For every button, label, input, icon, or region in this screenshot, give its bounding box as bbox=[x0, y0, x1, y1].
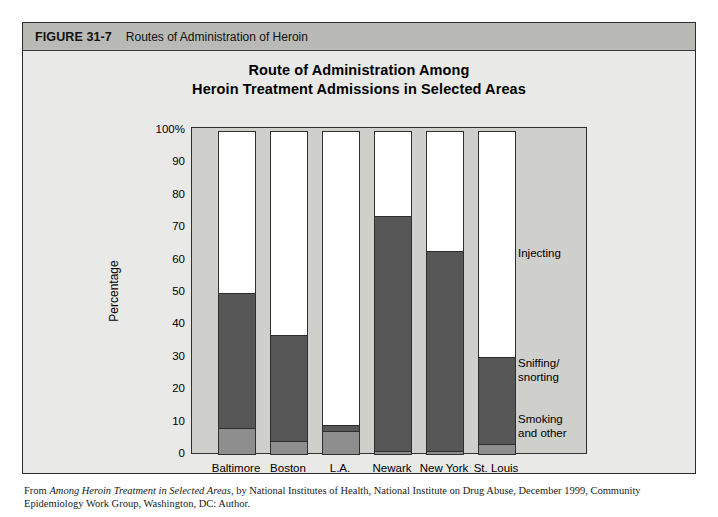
figure-page: FIGURE 31-7 Routes of Administration of … bbox=[0, 0, 718, 517]
y-tick-0: 0 bbox=[179, 447, 185, 459]
figure-header: FIGURE 31-7 Routes of Administration of … bbox=[23, 23, 695, 51]
bar-st-louis[interactable] bbox=[478, 131, 516, 455]
chart-title-line-2: Heroin Treatment Admissions in Selected … bbox=[23, 80, 695, 99]
bar-boston[interactable] bbox=[270, 131, 308, 455]
bar-l-a[interactable] bbox=[322, 131, 360, 455]
bar-newark[interactable] bbox=[374, 131, 412, 455]
x-label-boston: Boston bbox=[270, 462, 306, 474]
bar-baltimore[interactable] bbox=[218, 131, 256, 455]
bar-segment-sniff bbox=[479, 357, 515, 444]
y-tick-60: 60 bbox=[172, 253, 185, 265]
y-axis: 0102030405060708090100% bbox=[129, 127, 185, 454]
figure-frame: FIGURE 31-7 Routes of Administration of … bbox=[22, 22, 696, 474]
y-tick-40: 40 bbox=[172, 317, 185, 329]
y-tick-80: 80 bbox=[172, 188, 185, 200]
bar-segment-sniff bbox=[375, 216, 411, 451]
source-prefix: From bbox=[24, 485, 49, 496]
bar-segment-inject bbox=[271, 132, 307, 335]
bar-segment-smoke bbox=[479, 444, 515, 454]
bar-segment-sniff bbox=[271, 335, 307, 441]
bar-segment-inject bbox=[479, 132, 515, 357]
plot-area: InjectingSniffing/ snortingSmoking and o… bbox=[191, 127, 587, 454]
bar-segment-smoke bbox=[323, 431, 359, 454]
x-label-baltimore: Baltimore bbox=[212, 462, 261, 474]
y-tick-10: 10 bbox=[172, 415, 185, 427]
bar-segment-inject bbox=[219, 132, 255, 293]
y-axis-title: Percentage bbox=[107, 260, 121, 321]
bar-new-york[interactable] bbox=[426, 131, 464, 455]
y-tick-100: 100% bbox=[156, 123, 185, 135]
bar-segment-inject bbox=[323, 132, 359, 425]
bar-segment-smoke bbox=[219, 428, 255, 454]
y-tick-50: 50 bbox=[172, 285, 185, 297]
x-label-new-york: New York bbox=[420, 462, 469, 474]
y-tick-20: 20 bbox=[172, 382, 185, 394]
x-axis-labels: BaltimoreBostonL.A.NewarkNew YorkSt. Lou… bbox=[191, 458, 587, 478]
y-tick-30: 30 bbox=[172, 350, 185, 362]
bar-segment-sniff bbox=[427, 251, 463, 451]
bar-segment-inject bbox=[427, 132, 463, 251]
bar-segment-inject bbox=[375, 132, 411, 216]
bar-segment-smoke bbox=[375, 451, 411, 454]
x-label-newark: Newark bbox=[373, 462, 412, 474]
y-tick-70: 70 bbox=[172, 220, 185, 232]
plot-wrapper: Percentage 0102030405060708090100% Injec… bbox=[191, 127, 587, 454]
figure-caption: Routes of Administration of Heroin bbox=[126, 30, 308, 44]
bar-segment-sniff bbox=[219, 293, 255, 428]
figure-number: FIGURE 31-7 bbox=[35, 30, 112, 44]
bar-group bbox=[192, 128, 588, 455]
chart-title: Route of Administration Among Heroin Tre… bbox=[23, 61, 695, 99]
x-label-l-a: L.A. bbox=[330, 462, 350, 474]
bar-segment-smoke bbox=[271, 441, 307, 454]
source-title: Among Heroin Treatment in Selected Areas bbox=[49, 485, 230, 496]
chart-title-line-1: Route of Administration Among bbox=[23, 61, 695, 80]
y-tick-90: 90 bbox=[172, 155, 185, 167]
source-note: From Among Heroin Treatment in Selected … bbox=[24, 484, 696, 510]
bar-segment-smoke bbox=[427, 451, 463, 454]
x-label-st-louis: St. Louis bbox=[474, 462, 519, 474]
